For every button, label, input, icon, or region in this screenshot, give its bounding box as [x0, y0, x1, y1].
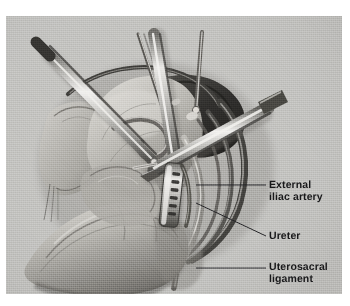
label-external-iliac-artery: External iliac artery [269, 180, 323, 203]
label-ureter: Ureter [269, 231, 301, 243]
label-uterosacral-ligament: Uterosacral ligament [269, 262, 328, 285]
illustration-artwork [6, 16, 342, 294]
illustration-canvas [6, 16, 342, 294]
